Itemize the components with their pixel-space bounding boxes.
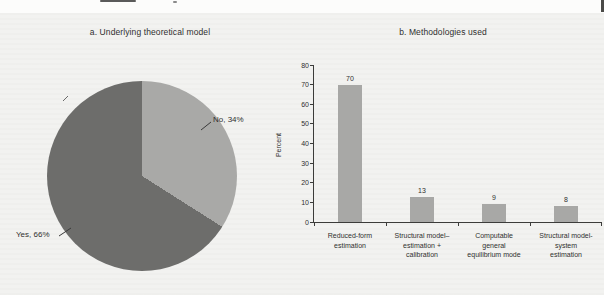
y-tick-mark bbox=[310, 202, 313, 203]
x-tick-mark bbox=[530, 223, 531, 226]
bar-plot-area: 0102030405060708070Reduced-form estimati… bbox=[313, 65, 602, 223]
bar-value-label: 9 bbox=[482, 194, 506, 201]
y-tick-label: 60 bbox=[289, 101, 309, 108]
figure: a. Underlying theoretical model No, 34% … bbox=[0, 0, 604, 295]
bar-chart-title: b. Methodologies used bbox=[343, 27, 543, 37]
pie-chart-title: a. Underlying theoretical model bbox=[30, 27, 270, 37]
y-tick-label: 0 bbox=[289, 219, 309, 226]
scan-top-margin bbox=[0, 0, 604, 13]
pie-chart bbox=[47, 81, 237, 271]
y-tick-label: 20 bbox=[289, 179, 309, 186]
x-tick-mark bbox=[314, 223, 315, 226]
category-label: Structural model- system estimation bbox=[528, 231, 604, 260]
pie-label-no: No, 34% bbox=[213, 115, 244, 124]
bar-4 bbox=[554, 206, 578, 222]
bar-value-label: 8 bbox=[554, 196, 578, 203]
y-tick-mark bbox=[310, 163, 313, 164]
category-label: Computable general equilibrium mode bbox=[456, 231, 532, 260]
cutoff-caption-fragment bbox=[100, 0, 136, 2]
x-tick-mark bbox=[458, 223, 459, 226]
y-tick-mark bbox=[310, 65, 313, 66]
y-tick-label: 50 bbox=[289, 120, 309, 127]
stray-mark bbox=[63, 96, 68, 101]
y-tick-mark bbox=[310, 182, 313, 183]
y-tick-label: 80 bbox=[289, 62, 309, 69]
y-tick-label: 40 bbox=[289, 140, 309, 147]
y-tick-mark bbox=[310, 104, 313, 105]
y-tick-label: 70 bbox=[289, 81, 309, 88]
x-tick-mark bbox=[601, 223, 602, 226]
y-tick-label: 10 bbox=[289, 199, 309, 206]
bar-1 bbox=[338, 85, 362, 222]
figure-panel: a. Underlying theoretical model No, 34% … bbox=[0, 13, 604, 295]
y-axis-label: Percent bbox=[275, 115, 285, 175]
bar-value-label: 70 bbox=[338, 75, 362, 82]
y-tick-mark bbox=[310, 143, 313, 144]
x-tick-mark bbox=[386, 223, 387, 226]
category-label: Reduced-form estimation bbox=[312, 231, 388, 250]
bar-3 bbox=[482, 204, 506, 222]
cutoff-caption-speck bbox=[173, 1, 177, 3]
bar-2 bbox=[410, 197, 434, 223]
y-tick-mark bbox=[310, 123, 313, 124]
y-tick-label: 30 bbox=[289, 160, 309, 167]
category-label: Structural model– estimation + calibrati… bbox=[384, 231, 460, 260]
y-tick-mark bbox=[310, 222, 313, 223]
y-tick-mark bbox=[310, 84, 313, 85]
bar-value-label: 13 bbox=[410, 187, 434, 194]
pie-label-yes: Yes, 66% bbox=[16, 230, 50, 239]
